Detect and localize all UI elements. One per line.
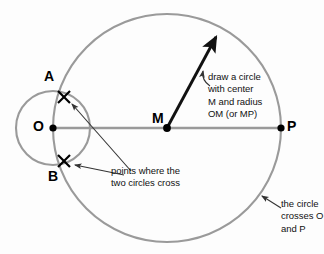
point-label-b: B bbox=[48, 168, 58, 184]
point-dot-p bbox=[277, 124, 284, 131]
annotation-draw-circle-center-m: draw a circle with center M and radius O… bbox=[208, 71, 304, 121]
point-label-m: M bbox=[152, 110, 164, 126]
diagram-canvas: A B O M P draw a circle with center M an… bbox=[0, 0, 324, 254]
point-dot-m bbox=[163, 124, 171, 132]
point-label-o: O bbox=[33, 118, 44, 134]
leader-circle-note bbox=[262, 196, 281, 208]
point-dot-o bbox=[49, 124, 56, 131]
geometry-drawing bbox=[0, 0, 324, 254]
leader-cross-a bbox=[72, 104, 131, 171]
annotation-circle-crosses-o-and-p: the circle crosses O and P bbox=[281, 198, 324, 235]
point-label-a: A bbox=[44, 68, 54, 84]
annotation-cross-points: points where the two circles cross bbox=[111, 165, 211, 190]
